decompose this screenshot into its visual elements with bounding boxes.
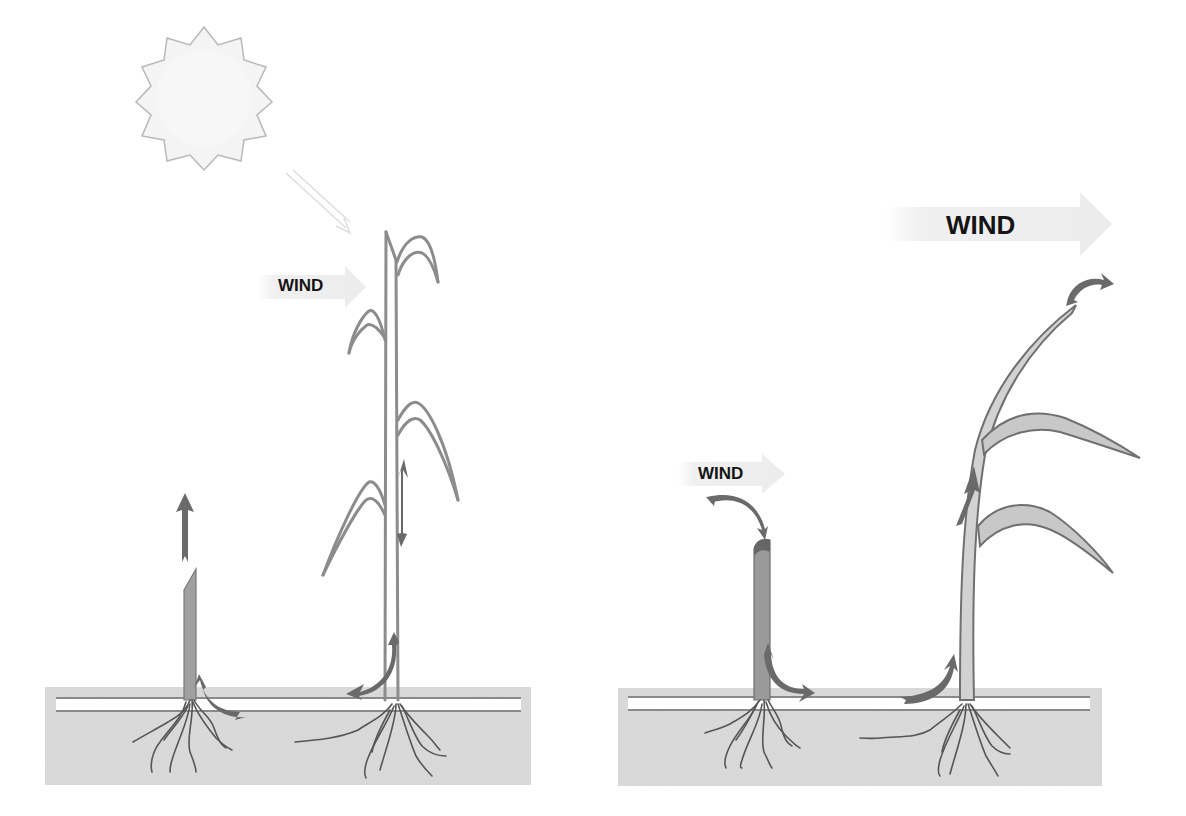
wind-arrow-large bbox=[885, 192, 1112, 256]
tall-plant-left bbox=[323, 232, 458, 700]
soil-right bbox=[618, 688, 1102, 786]
sunlight-arrow-icon bbox=[286, 170, 350, 233]
right-panel bbox=[618, 192, 1140, 786]
soil-left bbox=[45, 687, 531, 785]
arrow-down-icon bbox=[397, 459, 408, 547]
curved-arrow-icon bbox=[706, 495, 768, 540]
diagram-canvas bbox=[0, 0, 1186, 816]
arrow-up-icon bbox=[176, 493, 194, 562]
wind-arrow-left bbox=[258, 266, 366, 308]
left-panel bbox=[45, 27, 531, 785]
sun-icon bbox=[136, 27, 272, 170]
curved-arrow-icon bbox=[1066, 273, 1114, 306]
tall-plant-right bbox=[960, 305, 1140, 700]
short-stalk-left bbox=[176, 493, 246, 720]
wind-arrow-small-right bbox=[678, 454, 785, 494]
short-stalk-right bbox=[706, 495, 815, 702]
